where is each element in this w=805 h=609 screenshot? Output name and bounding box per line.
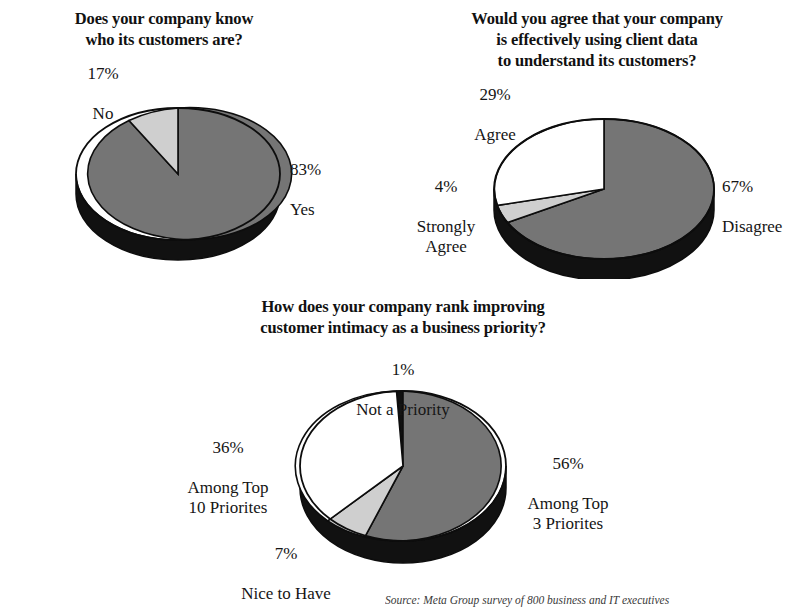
source-note: Source: Meta Group survey of 800 busines… xyxy=(385,594,805,609)
label-name: Agree xyxy=(474,125,516,144)
chart-3-label-top-3-priorites: 56% Among Top 3 Priorites xyxy=(498,434,638,534)
pie-chart-customer-intimacy-priority: How does your company rank improving cus… xyxy=(168,296,638,578)
label-name: Disagree xyxy=(722,217,782,236)
chart-3-label-nice-to-have: 7% Nice to Have xyxy=(206,524,366,604)
label-pct: 56% xyxy=(552,454,583,473)
label-pct: 4% xyxy=(435,177,458,196)
chart-1-label-yes: 83% Yes xyxy=(290,140,370,220)
label-name: Among Top 10 Priorites xyxy=(187,478,268,517)
label-name: Strongly Agree xyxy=(417,217,476,256)
chart-2-plot: 29% Agree 4% Strongly Agree 67% Disagree xyxy=(404,79,804,279)
chart-3-label-not-a-priority: 1% Not a Priority xyxy=(318,340,488,420)
label-pct: 83% xyxy=(290,160,321,179)
label-pct: 17% xyxy=(87,64,118,83)
label-pct: 7% xyxy=(275,544,298,563)
chart-2-label-agree: 29% Agree xyxy=(440,65,550,145)
label-pct: 67% xyxy=(722,177,753,196)
chart-3-plot: 1% Not a Priority 36% Among Top 10 Prior… xyxy=(168,348,638,578)
label-pct: 1% xyxy=(392,360,415,379)
label-name: Not a Priority xyxy=(356,400,450,419)
chart-3-title: How does your company rank improving cus… xyxy=(168,296,638,338)
chart-1-plot: 17% No 83% Yes xyxy=(8,62,368,262)
chart-1-label-no: 17% No xyxy=(48,44,158,124)
label-name: Yes xyxy=(290,200,315,219)
chart-2-label-strongly-agree: 4% Strongly Agree xyxy=(396,157,496,257)
pie-slice-yes xyxy=(88,108,292,240)
label-name: Among Top 3 Priorites xyxy=(527,494,608,533)
label-pct: 36% xyxy=(212,438,243,457)
label-pct: 29% xyxy=(479,85,510,104)
pie-chart-customers-known: Does your company know who its customers… xyxy=(8,8,368,262)
label-name: No xyxy=(93,104,114,123)
pie-chart-client-data-effectiveness: Would you agree that your company is eff… xyxy=(404,8,804,279)
chart-3-label-top-10-priorites: 36% Among Top 10 Priorites xyxy=(158,418,298,518)
chart-2-label-disagree: 67% Disagree xyxy=(722,157,805,237)
label-name: Nice to Have xyxy=(241,584,331,603)
chart-2-title: Would you agree that your company is eff… xyxy=(412,8,782,71)
